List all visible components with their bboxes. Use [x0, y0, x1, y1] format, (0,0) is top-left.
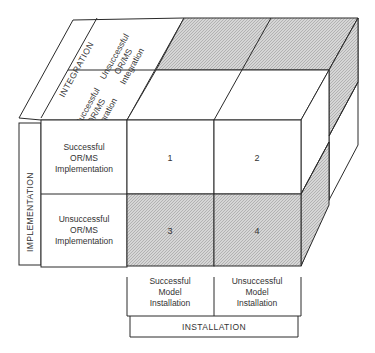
- installation-col-successful: Successful Model Installation: [149, 276, 190, 308]
- installation-col-unsuccessful: Unsuccessful Model Installation: [232, 276, 283, 308]
- svg-text:OR/MS: OR/MS: [70, 153, 98, 163]
- svg-text:Model: Model: [245, 287, 268, 297]
- implementation-axis-label: IMPLEMENTATION: [25, 172, 35, 252]
- svg-text:Model: Model: [158, 287, 181, 297]
- cell-4-label: 4: [254, 226, 259, 236]
- svg-text:Successful: Successful: [63, 142, 104, 152]
- cell-2-label: 2: [254, 153, 259, 163]
- svg-text:Unsuccessful: Unsuccessful: [59, 214, 110, 224]
- cell-3-label: 3: [167, 226, 172, 236]
- svg-text:Implementation: Implementation: [55, 164, 113, 174]
- cube-diagram: INTEGRATION Unsuccessful OR/MS Integrati…: [0, 0, 375, 353]
- svg-text:Installation: Installation: [237, 298, 278, 308]
- svg-text:Implementation: Implementation: [55, 236, 113, 246]
- svg-text:Successful: Successful: [149, 276, 190, 286]
- svg-text:Installation: Installation: [150, 298, 191, 308]
- cell-1-label: 1: [167, 153, 172, 163]
- installation-axis-label: INSTALLATION: [182, 322, 246, 332]
- svg-text:Unsuccessful: Unsuccessful: [232, 276, 283, 286]
- svg-text:OR/MS: OR/MS: [70, 225, 98, 235]
